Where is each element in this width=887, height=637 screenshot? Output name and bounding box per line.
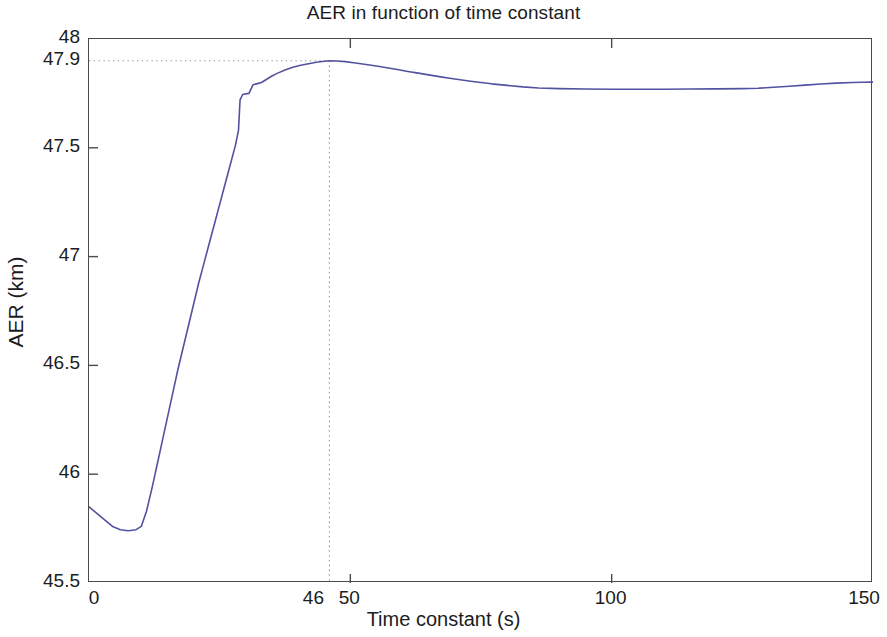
y-tick-label: 47.5 [0, 136, 80, 155]
x-tick-label: 150 [848, 588, 880, 607]
x-tick-label: 50 [339, 588, 360, 607]
chart-figure: AER in function of time constant AER (km… [0, 0, 887, 637]
y-tick-label: 45.5 [0, 571, 80, 590]
x-tick-label: 100 [595, 588, 627, 607]
y-tick-label: 47 [0, 245, 80, 264]
y-axis-tick-labels: 45.54646.54747.54847.9 [0, 0, 80, 637]
cursor-y-value-label: 47.9 [0, 49, 80, 68]
x-axis-label: Time constant (s) [0, 608, 887, 631]
cursor-x-value-label: 46 [303, 588, 324, 607]
data-series-line [89, 61, 873, 531]
tick-marks [89, 39, 612, 583]
plot-area [88, 38, 872, 582]
y-tick-label: 46 [0, 462, 80, 481]
cursor-crosshair [89, 61, 329, 583]
chart-title: AER in function of time constant [0, 2, 887, 24]
y-tick-label: 48 [0, 27, 80, 46]
x-tick-label: 0 [89, 588, 100, 607]
y-tick-label: 46.5 [0, 353, 80, 372]
plot-canvas [89, 39, 873, 583]
